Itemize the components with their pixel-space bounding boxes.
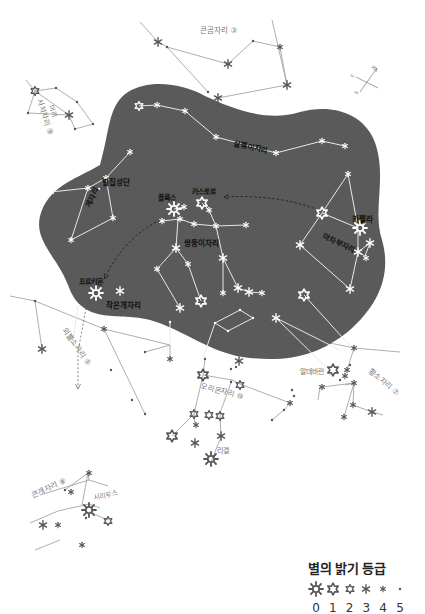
legend-mag4-icon [375,581,391,597]
legend-numbers: 0 1 2 3 4 5 [308,601,408,614]
legend-mag2: 2 [342,601,358,614]
legend-mag3: 3 [358,601,374,614]
legend-mag5-icon [392,581,408,597]
label-procyon: 프로키온 [79,277,104,286]
legend-symbols [308,581,408,597]
legend-mag3-icon [358,581,374,597]
label-aldebaran: 알데바란 [300,367,325,376]
legend-mag4: 4 [375,601,391,614]
magnitude-legend: 별의 밝기 등급 0 1 2 3 4 5 [308,558,418,614]
legend-mag1-icon [325,581,341,597]
label-pollux: 폴룩스 [158,193,177,202]
label-monoceros: 외뿔소자리 ⑤ [60,325,94,367]
compass [356,68,378,92]
label-orion: 오리온자리 ⑩ [199,381,244,401]
legend-mag0: 0 [308,601,324,614]
label-canis-major: 큰개자리 ⑧ [30,475,68,500]
label-taurus: 황소자리 ⑦ [367,366,402,398]
label-rigel: 리겔 [217,446,229,455]
legend-mag2-icon [342,581,358,597]
label-beehive: 벌집성단 [102,177,130,187]
label-ursa-major: 큰곰자리 ③ [200,26,237,35]
label-sirius: 시리우스 [93,488,119,502]
compass-s: S [353,90,360,96]
legend-mag5: 5 [392,601,408,614]
highlight-region [39,84,385,359]
label-castor: 카스토르 [192,187,217,196]
label-capella: 카펠라 [352,214,373,224]
legend-mag1: 1 [325,601,341,614]
compass-e: E [349,73,356,79]
star-chart: 큰곰자리 ③ 사자자리 ⑨ 머리 살쾡이자리 벌집성단 게자리 폴룩스 카스토르… [0,0,425,614]
label-canis-minor: 작은개자리 [106,300,141,310]
legend-title: 별의 밝기 등급 [308,558,418,577]
legend-mag0-icon [308,581,324,597]
label-gemini: 쌍둥이자리 [184,238,219,248]
